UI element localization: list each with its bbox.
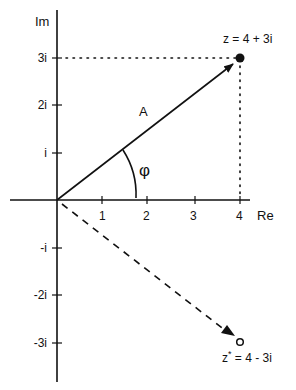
complex-plane-diagram: 1 2 3 4 Re Im 3i 2i i -i -2i -3i z = 4 +… — [0, 0, 296, 390]
imag-tick-label-neg-i: -i — [40, 241, 47, 255]
vector-z-conjugate-arrowhead — [221, 325, 235, 336]
point-z-label: z = 4 + 3i — [223, 32, 272, 46]
real-tick-label-3: 3 — [190, 209, 197, 223]
imag-tick-label-2i: 2i — [38, 98, 47, 112]
vector-z-conjugate-arrow — [62, 204, 226, 331]
point-z-dot — [236, 54, 245, 63]
angle-arc — [123, 150, 136, 198]
point-z-conjugate-circle — [237, 339, 244, 346]
imag-tick-label-neg-2i: -2i — [34, 288, 47, 302]
imag-axis-label: Im — [35, 14, 49, 29]
magnitude-label: A — [139, 104, 148, 119]
real-tick-label-4: 4 — [236, 209, 243, 223]
imag-tick-label-i: i — [44, 146, 47, 160]
imag-tick-label-3i: 3i — [38, 51, 47, 65]
real-tick-label-2: 2 — [143, 209, 150, 223]
angle-phi-label: φ — [139, 161, 150, 180]
real-axis-label: Re — [257, 208, 274, 223]
point-z-conjugate-label: z* = 4 - 3i — [222, 349, 272, 365]
imag-tick-label-neg-3i: -3i — [34, 336, 47, 350]
real-tick-label-1: 1 — [99, 209, 106, 223]
